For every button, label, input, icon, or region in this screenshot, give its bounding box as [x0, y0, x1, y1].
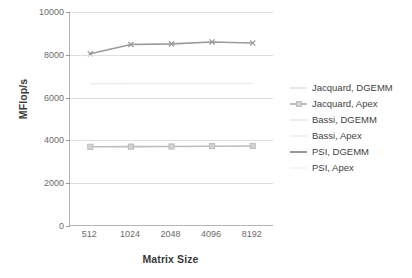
legend-label: Jacquard, Apex: [312, 96, 378, 112]
legend-item-jacquard-dgemm[interactable]: Jacquard, DGEMM: [290, 80, 408, 96]
y-axis-tick-label: 0: [28, 221, 64, 231]
x-axis-tick-label: 512: [67, 229, 111, 239]
legend-swatch-icon: [290, 162, 307, 174]
data-point-marker: [88, 144, 93, 149]
legend-label: PSI, Apex: [312, 160, 354, 176]
legend-label: PSI, DGEMM: [312, 144, 369, 160]
series-jacquard-apex: [88, 143, 256, 149]
y-axis-tick-mark: [66, 183, 70, 184]
legend-swatch-icon: [290, 114, 307, 126]
y-axis-tick-label: 2000: [28, 178, 64, 188]
series-plot: [70, 12, 273, 226]
data-point-marker: [128, 144, 133, 149]
y-axis-tick-label: 10000: [28, 7, 64, 17]
gridline: [70, 140, 273, 141]
plot-area: [69, 12, 273, 226]
chart-figure: MFlop/s 0200040006000800010000 512102420…: [0, 0, 412, 278]
y-axis-tick-label: 8000: [28, 50, 64, 60]
legend-item-psi-dgemm[interactable]: PSI, DGEMM: [290, 144, 408, 160]
y-axis-tick-label: 4000: [28, 135, 64, 145]
y-axis-tick-mark: [66, 140, 70, 141]
legend-item-bassi-dgemm[interactable]: Bassi, DGEMM: [290, 112, 408, 128]
legend-item-bassi-apex[interactable]: Bassi, Apex: [290, 128, 408, 144]
legend-swatch-icon: [290, 146, 307, 158]
legend-item-jacquard-apex[interactable]: Jacquard, Apex: [290, 96, 408, 112]
x-axis-title: Matrix Size: [69, 253, 272, 265]
legend-label: Jacquard, DGEMM: [312, 80, 393, 96]
gridline: [70, 183, 273, 184]
y-axis-tick-labels: 0200040006000800010000: [28, 12, 64, 226]
legend-swatch-icon: [290, 130, 307, 142]
x-axis-tick-label: 1024: [108, 229, 152, 239]
x-axis-tick-label: 8192: [230, 229, 274, 239]
y-axis-tick-mark: [66, 98, 70, 99]
chart-legend: Jacquard, DGEMMJacquard, ApexBassi, DGEM…: [290, 80, 408, 176]
series-psi-dgemm: [88, 39, 256, 56]
legend-label: Bassi, DGEMM: [312, 112, 377, 128]
x-axis-tick-labels: 5121024204840968192: [69, 229, 272, 243]
gridline: [70, 98, 273, 99]
legend-label: Bassi, Apex: [312, 128, 362, 144]
y-axis-tick-mark: [66, 226, 70, 227]
x-axis-tick-label: 2048: [149, 229, 193, 239]
y-axis-tick-mark: [66, 55, 70, 56]
data-point-marker: [169, 144, 174, 149]
data-point-marker: [210, 144, 215, 149]
legend-item-psi-apex[interactable]: PSI, Apex: [290, 160, 408, 176]
legend-swatch-icon: [290, 82, 307, 94]
gridline: [70, 12, 273, 13]
y-axis-tick-mark: [66, 12, 70, 13]
legend-swatch-icon: [290, 98, 307, 110]
gridline: [70, 55, 273, 56]
data-point-marker: [250, 143, 255, 148]
y-axis-tick-label: 6000: [28, 93, 64, 103]
x-axis-tick-label: 4096: [189, 229, 233, 239]
